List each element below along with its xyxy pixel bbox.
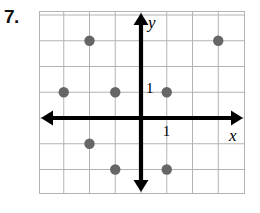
- data-point: [213, 36, 223, 46]
- problem-number: 7.: [4, 6, 19, 28]
- x-axis-label: x: [229, 126, 237, 146]
- y-axis-label: y: [148, 13, 156, 33]
- data-point: [84, 139, 94, 149]
- data-point: [59, 87, 69, 97]
- data-point: [162, 164, 172, 174]
- coordinate-plane: y x 1 1: [39, 11, 245, 194]
- x-axis-unit-label: 1: [163, 123, 171, 140]
- data-points: [39, 11, 245, 194]
- problem-figure: 7. y x 1 1: [0, 0, 260, 213]
- data-point: [110, 164, 120, 174]
- data-point: [110, 87, 120, 97]
- data-point: [84, 36, 94, 46]
- y-axis-unit-label: 1: [146, 80, 154, 97]
- data-point: [162, 87, 172, 97]
